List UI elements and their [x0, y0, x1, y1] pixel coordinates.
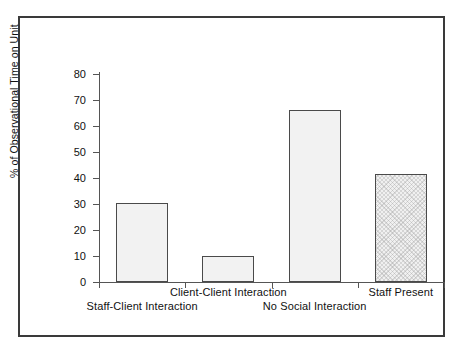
y-tick	[93, 74, 99, 75]
y-tick	[93, 230, 99, 231]
y-tick	[93, 204, 99, 205]
x-tick	[99, 282, 100, 288]
x-axis-label: Staff Present	[369, 286, 434, 298]
x-axis-label: No Social Interaction	[263, 300, 367, 312]
bar	[375, 174, 427, 282]
y-tick	[93, 152, 99, 153]
x-tick	[444, 282, 445, 288]
y-tick	[93, 100, 99, 101]
x-tick	[358, 282, 359, 288]
y-axis-line	[99, 72, 100, 284]
bar	[116, 203, 168, 282]
figure-frame: % of Observational Time on Unit 01020304…	[18, 16, 445, 337]
x-axis-label: Client-Client Interaction	[170, 286, 287, 298]
bar	[289, 110, 341, 282]
bar	[202, 256, 254, 282]
y-axis-title: % of Observational Time on Unit	[8, 24, 20, 178]
x-axis-label: Staff-Client Interaction	[87, 300, 198, 312]
y-tick	[93, 126, 99, 127]
y-tick	[93, 178, 99, 179]
y-tick	[93, 256, 99, 257]
